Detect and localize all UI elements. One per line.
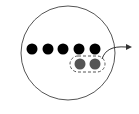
black-dot (58, 44, 69, 55)
gray-dot (90, 59, 101, 70)
black-dot (27, 44, 38, 55)
arrow-head-icon (126, 44, 132, 50)
black-dot (90, 44, 101, 55)
black-dot (43, 44, 54, 55)
gray-dot (75, 59, 86, 70)
diagram-canvas (0, 0, 139, 114)
black-dot (74, 44, 85, 55)
